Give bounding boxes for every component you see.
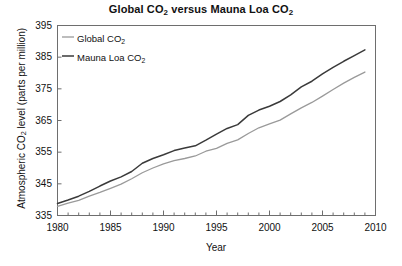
- legend-label-global-co2: Global CO2: [77, 33, 125, 45]
- legend-label-mauna-loa-co2: Mauna Loa CO2: [77, 52, 145, 64]
- series-lines: [58, 50, 365, 206]
- legend-swatches: [62, 37, 74, 56]
- series-line-mauna-loa-co2: [58, 50, 365, 204]
- chart-figure: Global CO2 versus Mauna Loa CO2 Atmosphe…: [0, 0, 402, 266]
- series-line-global-co2: [58, 72, 365, 206]
- plot-area: [0, 0, 402, 266]
